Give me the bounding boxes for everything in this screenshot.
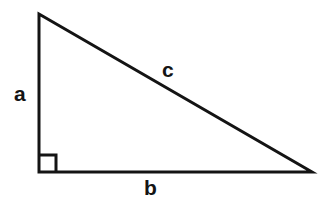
diagram-canvas: a b c <box>0 0 324 208</box>
right-triangle-figure <box>0 0 324 208</box>
side-label-a: a <box>14 83 26 104</box>
figure-background <box>0 0 324 208</box>
side-label-c: c <box>162 59 174 80</box>
side-label-b: b <box>144 177 157 198</box>
